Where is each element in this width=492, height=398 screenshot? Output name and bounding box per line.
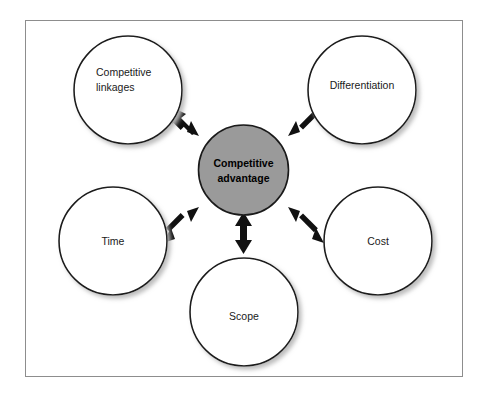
node-cost[interactable]: Cost bbox=[324, 187, 432, 295]
node-competitive-advantage[interactable]: Competitive advantage bbox=[199, 125, 289, 215]
node-label-competitive-linkages-line2: linkages bbox=[96, 81, 135, 93]
arrow-center-time bbox=[163, 207, 199, 243]
node-competitive-linkages[interactable]: Competitive linkages bbox=[74, 36, 182, 144]
diagram-root: Competitive linkages Differentiation Tim… bbox=[0, 0, 492, 398]
node-label-competitive-linkages-line1: Competitive bbox=[96, 66, 152, 78]
node-label-competitive-advantage-line1: Competitive bbox=[213, 157, 273, 169]
node-label-differentiation: Differentiation bbox=[330, 79, 395, 91]
arrow-center-cost bbox=[288, 207, 324, 243]
node-label-scope: Scope bbox=[229, 310, 259, 322]
node-label-time: Time bbox=[102, 235, 125, 247]
node-differentiation[interactable]: Differentiation bbox=[308, 36, 416, 144]
node-time[interactable]: Time bbox=[59, 187, 167, 295]
node-label-cost: Cost bbox=[367, 235, 389, 247]
diagram-canvas: Competitive linkages Differentiation Tim… bbox=[0, 0, 492, 398]
node-scope[interactable]: Scope bbox=[190, 258, 298, 366]
arrow-center-scope bbox=[235, 212, 252, 254]
node-label-competitive-advantage-line2: advantage bbox=[218, 172, 270, 184]
